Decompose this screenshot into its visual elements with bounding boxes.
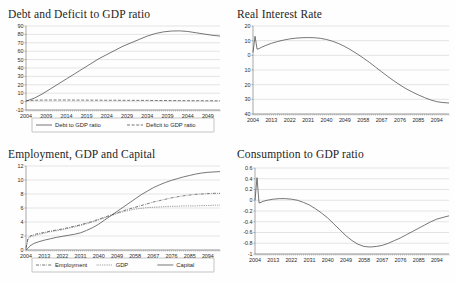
legend-label: Deficit to GDP ratio: [146, 122, 196, 128]
x-tick-label: 2067: [376, 257, 388, 263]
y-tick-label: 30: [18, 73, 24, 79]
panel-consumption-gdp: Consumption to GDP ratio 0.60.40.20-0.2-…: [231, 148, 453, 280]
panel-employment-gdp-capital: Employment, GDP and Capital 024681012200…: [4, 148, 226, 280]
x-tick-label: 2013: [265, 117, 277, 123]
y-tick-label: 10: [245, 38, 251, 44]
y-tick-label: 10: [245, 67, 251, 73]
x-tick-label: 2085: [413, 257, 425, 263]
y-tick-label: -0.8: [243, 240, 252, 246]
x-tick-label: 2058: [129, 253, 141, 259]
x-tick-label: 2085: [412, 117, 424, 123]
plot-consumption-gdp: 0.60.40.20-0.2-0.4-0.6-0.8-1200420132022…: [231, 164, 453, 282]
y-tick-label: 4: [21, 219, 24, 225]
x-tick-label: 2031: [304, 257, 316, 263]
x-tick-label: 2040: [93, 253, 105, 259]
y-tick-label: 0.6: [245, 165, 253, 171]
chart-svg-real-interest-rate: 2010010203040200420132022203120402049205…: [231, 22, 453, 140]
series-line: [26, 205, 220, 248]
y-tick-label: 0: [21, 247, 24, 253]
panel-real-interest-rate: Real Interest Rate 201001020304020042013…: [231, 8, 453, 140]
x-tick-label: 2040: [321, 117, 333, 123]
y-tick-label: 80: [18, 31, 24, 37]
x-tick-label: 2019: [81, 113, 93, 119]
y-tick-label: 6: [21, 205, 24, 211]
x-tick-label: 2004: [20, 113, 32, 119]
x-tick-label: 2067: [376, 117, 388, 123]
x-tick-label: 2049: [339, 117, 351, 123]
chart-svg-debt: -100102030405060708090200420092014201920…: [4, 22, 226, 140]
y-tick-label: 40: [245, 111, 251, 117]
x-tick-label: 2022: [285, 257, 297, 263]
y-tick-label: 10: [18, 177, 24, 183]
y-tick-label: 90: [18, 23, 24, 29]
y-tick-label: 8: [21, 191, 24, 197]
y-tick-label: 30: [245, 96, 251, 102]
legend-label: Debt to GDP ratio: [55, 122, 101, 128]
legend-label: Employment: [55, 262, 88, 268]
series-line: [255, 178, 449, 247]
y-tick-label: 20: [18, 82, 24, 88]
x-tick-label: 2049: [111, 253, 123, 259]
y-tick-label: 12: [18, 163, 24, 169]
panel-title-debt: Debt and Deficit to GDP ratio: [8, 8, 150, 21]
x-tick-label: 2058: [358, 257, 370, 263]
panel-title-real-interest-rate: Real Interest Rate: [237, 8, 322, 21]
x-tick-label: 2014: [60, 113, 72, 119]
x-tick-label: 2009: [40, 113, 52, 119]
x-tick-label: 2049: [202, 113, 214, 119]
y-tick-label: 70: [18, 40, 24, 46]
x-tick-label: 2031: [75, 253, 87, 259]
series-line: [26, 172, 220, 250]
x-tick-label: 2085: [184, 253, 196, 259]
x-tick-label: 2044: [182, 113, 194, 119]
panel-title-consumption-gdp: Consumption to GDP ratio: [237, 148, 364, 161]
plot-debt-deficit: -100102030405060708090200420092014201920…: [4, 22, 226, 140]
x-tick-label: 2058: [357, 117, 369, 123]
x-tick-label: 2004: [20, 253, 32, 259]
y-tick-label: 20: [245, 23, 251, 29]
chart-svg-employment-gdp-capital: 0246810122004201320222031204020492058206…: [4, 162, 226, 280]
chart-svg-consumption-gdp: 0.60.40.20-0.2-0.4-0.6-0.8-1200420132022…: [231, 164, 453, 282]
x-tick-label: 2013: [38, 253, 50, 259]
x-tick-label: 2039: [161, 113, 173, 119]
y-tick-label: 0: [248, 52, 251, 58]
panel-debt-deficit: Debt and Deficit to GDP ratio -100102030…: [4, 8, 226, 140]
legend-label: GDP: [116, 262, 129, 268]
x-tick-label: 2004: [247, 117, 259, 123]
y-tick-label: -0.4: [243, 219, 252, 225]
y-tick-label: 0: [250, 197, 253, 203]
y-tick-label: 60: [18, 48, 24, 54]
y-tick-label: 10: [18, 90, 24, 96]
y-tick-label: 0: [21, 99, 24, 105]
y-tick-label: -0.6: [243, 229, 252, 235]
y-tick-label: -1: [248, 251, 253, 257]
series-line: [26, 100, 220, 101]
x-tick-label: 2022: [56, 253, 68, 259]
y-tick-label: 40: [18, 65, 24, 71]
y-tick-label: 2: [21, 233, 24, 239]
series-line: [26, 193, 220, 248]
x-tick-label: 2034: [141, 113, 153, 119]
x-tick-label: 2094: [431, 257, 443, 263]
x-tick-label: 2022: [284, 117, 296, 123]
x-tick-label: 2049: [340, 257, 352, 263]
y-tick-label: 50: [18, 57, 24, 63]
panel-title-employment-gdp-capital: Employment, GDP and Capital: [8, 148, 155, 161]
x-tick-label: 2024: [101, 113, 113, 119]
x-tick-label: 2094: [202, 253, 214, 259]
x-tick-label: 2076: [166, 253, 178, 259]
x-tick-label: 2013: [267, 257, 279, 263]
x-tick-label: 2004: [249, 257, 261, 263]
y-tick-label: 0.2: [245, 186, 253, 192]
series-line: [253, 36, 449, 103]
legend-label: Capital: [176, 262, 194, 268]
x-tick-label: 2076: [394, 117, 406, 123]
charts-page: Debt and Deficit to GDP ratio -100102030…: [0, 0, 455, 282]
x-tick-label: 2067: [147, 253, 159, 259]
x-tick-label: 2029: [121, 113, 133, 119]
plot-employment-gdp-capital: 0246810122004201320222031204020492058206…: [4, 162, 226, 280]
y-tick-label: 20: [245, 82, 251, 88]
y-tick-label: -10: [16, 107, 24, 113]
x-tick-label: 2031: [302, 117, 314, 123]
y-tick-label: 0.4: [245, 176, 253, 182]
